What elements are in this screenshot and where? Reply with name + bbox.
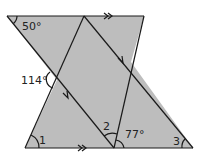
angle-1-label: 1 <box>39 134 46 147</box>
angle-114-label: 114° <box>21 74 48 87</box>
angle-2-label: 2 <box>103 120 110 133</box>
angle-50-label: 50° <box>22 20 42 33</box>
geometry-diagram: 50° 114° 1 2 77° 3 <box>0 0 200 156</box>
angle-3-label: 3 <box>173 135 180 148</box>
angle-77-label: 77° <box>125 128 145 141</box>
